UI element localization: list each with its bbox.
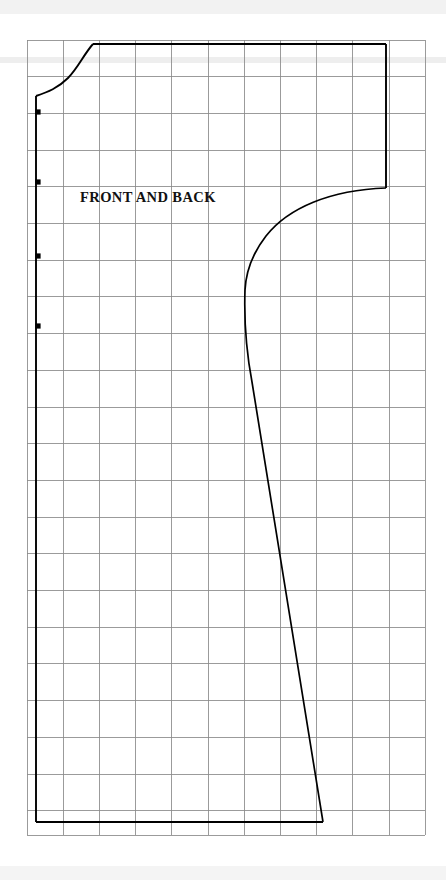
scan-artifact-band-bottom: [0, 866, 446, 880]
pattern-diagram: [0, 0, 446, 880]
scan-artifact-band-mid: [0, 57, 446, 63]
notch-dot: [35, 253, 40, 258]
notch-dot: [35, 109, 40, 114]
notch-dot: [35, 323, 40, 328]
paper-background: [0, 0, 446, 880]
pattern-piece-label: FRONT AND BACK: [80, 189, 216, 206]
pattern-page: FRONT AND BACK: [0, 0, 446, 880]
notch-dot: [35, 179, 40, 184]
scan-artifact-band-top: [0, 0, 446, 14]
